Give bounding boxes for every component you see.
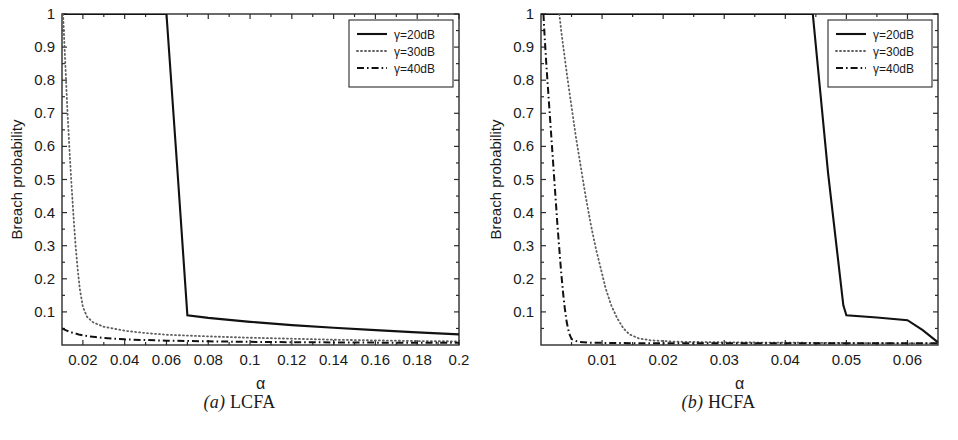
x-tick-label: 0.06 bbox=[893, 351, 922, 368]
y-tick-label: 0.4 bbox=[513, 204, 534, 221]
x-tick-label: 0.04 bbox=[771, 351, 800, 368]
y-tick-label: 0.2 bbox=[34, 270, 55, 287]
x-tick-label: 0.08 bbox=[194, 351, 223, 368]
y-tick-label: 0.5 bbox=[513, 171, 534, 188]
y-tick-label: 0.5 bbox=[34, 171, 55, 188]
y-tick-label: 0.4 bbox=[34, 204, 55, 221]
caption-text-b: HCFA bbox=[708, 392, 755, 412]
chart-legend[interactable]: γ=20dBγ=30dBγ=40dB bbox=[349, 20, 453, 87]
panel-lcfa: 0.020.040.060.080.10.120.140.160.180.20.… bbox=[0, 0, 479, 440]
legend-label: γ=20dB bbox=[873, 28, 914, 42]
x-tick-label: 0.06 bbox=[152, 351, 181, 368]
x-tick-label: 0.01 bbox=[587, 351, 616, 368]
y-axis-title: Breach probability bbox=[487, 119, 504, 240]
caption-index-a: (a) bbox=[204, 392, 226, 412]
y-tick-label: 0.9 bbox=[34, 38, 55, 55]
legend-label: γ=30dB bbox=[394, 45, 435, 59]
chart-hcfa: 0.010.020.030.040.050.060.10.20.30.40.50… bbox=[479, 0, 958, 392]
x-tick-label: 0.02 bbox=[68, 351, 97, 368]
y-tick-label: 1 bbox=[47, 5, 55, 22]
y-tick-label: 0.6 bbox=[34, 137, 55, 154]
legend-label: γ=40dB bbox=[873, 62, 914, 76]
y-tick-label: 0.1 bbox=[513, 303, 534, 320]
x-tick-label: 0.1 bbox=[240, 351, 261, 368]
legend-label: γ=20dB bbox=[394, 28, 435, 42]
x-tick-label: 0.03 bbox=[710, 351, 739, 368]
legend-label: γ=30dB bbox=[873, 45, 914, 59]
x-axis-title: α bbox=[735, 375, 744, 392]
x-tick-label: 0.12 bbox=[277, 351, 306, 368]
figure-container: 0.020.040.060.080.10.120.140.160.180.20.… bbox=[0, 0, 958, 440]
caption-index-b: (b) bbox=[682, 392, 704, 412]
x-tick-label: 0.04 bbox=[110, 351, 139, 368]
x-axis-title: α bbox=[256, 375, 265, 392]
y-tick-label: 0.6 bbox=[513, 137, 534, 154]
x-tick-label: 0.05 bbox=[832, 351, 861, 368]
panel-hcfa: 0.010.020.030.040.050.060.10.20.30.40.50… bbox=[479, 0, 958, 440]
legend-label: γ=40dB bbox=[394, 62, 435, 76]
x-tick-label: 0.2 bbox=[449, 351, 470, 368]
y-tick-label: 0.2 bbox=[513, 270, 534, 287]
x-tick-label: 0.16 bbox=[361, 351, 390, 368]
y-tick-label: 0.9 bbox=[513, 38, 534, 55]
x-tick-label: 0.02 bbox=[649, 351, 678, 368]
caption-lcfa: (a) LCFA bbox=[0, 392, 479, 413]
y-axis-title: Breach probability bbox=[8, 119, 25, 240]
y-tick-label: 0.3 bbox=[513, 237, 534, 254]
chart-legend[interactable]: γ=20dBγ=30dBγ=40dB bbox=[828, 20, 932, 87]
y-tick-label: 0.7 bbox=[513, 104, 534, 121]
caption-text-a: LCFA bbox=[230, 392, 275, 412]
chart-lcfa: 0.020.040.060.080.10.120.140.160.180.20.… bbox=[0, 0, 479, 392]
x-tick-label: 0.14 bbox=[319, 351, 348, 368]
y-tick-label: 0.8 bbox=[34, 71, 55, 88]
y-tick-label: 0.1 bbox=[34, 303, 55, 320]
x-tick-label: 0.18 bbox=[403, 351, 432, 368]
y-tick-label: 1 bbox=[526, 5, 534, 22]
caption-hcfa: (b) HCFA bbox=[479, 392, 958, 413]
y-tick-label: 0.8 bbox=[513, 71, 534, 88]
y-tick-label: 0.7 bbox=[34, 104, 55, 121]
y-tick-label: 0.3 bbox=[34, 237, 55, 254]
